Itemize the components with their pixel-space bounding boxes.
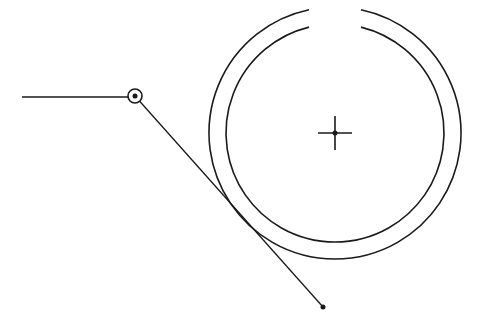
end-point-icon[interactable]: [321, 305, 326, 310]
drawing-canvas[interactable]: [0, 0, 491, 333]
pivot-point-icon[interactable]: [128, 89, 142, 103]
canvas-background: [0, 0, 491, 333]
